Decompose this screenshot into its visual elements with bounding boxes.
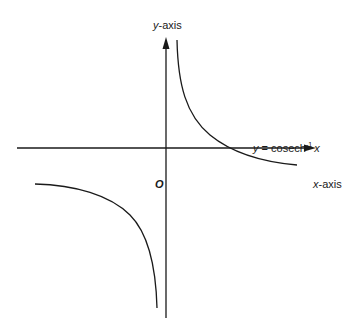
curve-negative-branch — [35, 184, 157, 308]
y-axis-label: y-axis — [153, 19, 182, 31]
y-axis-text: -axis — [159, 19, 182, 31]
x-axis-text: -axis — [319, 178, 342, 190]
origin-label: O — [155, 178, 164, 190]
curve-label-eq: = cosech — [259, 142, 306, 154]
y-axis-arrowhead — [163, 37, 170, 49]
curve-label: y = cosech-1x — [253, 141, 320, 154]
curve-label-sup: -1 — [306, 141, 312, 148]
x-axis-label: x-axis — [313, 178, 342, 190]
curve-label-arg: x — [314, 142, 320, 154]
graph-canvas — [0, 0, 353, 332]
